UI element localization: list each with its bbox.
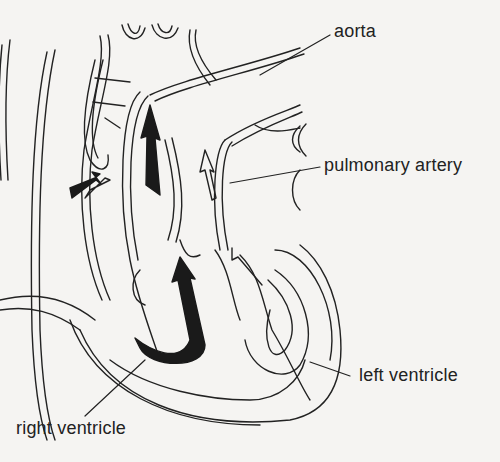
pulmonary-artery-label: pulmonary artery [324,155,462,176]
left-ventricle-label: left ventricle [359,365,458,386]
aorta-label: aorta [334,21,376,42]
right-ventricle-label: right ventricle [16,418,126,439]
heart-diagram: aorta pulmonary artery left ventricle ri… [0,0,500,462]
heart-line-art [0,0,500,462]
